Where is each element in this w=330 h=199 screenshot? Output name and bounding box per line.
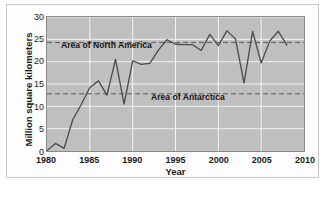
- x-axis-title: Year: [46, 166, 305, 177]
- chart-svg: [47, 17, 304, 151]
- x-tick-1985: 1985: [79, 155, 99, 165]
- chart-figure: 0 5 10 15 20 25 30 1980 1985 1990 1995 2…: [0, 0, 330, 199]
- plot-area: Area of North America Area of Antarctica: [46, 16, 305, 152]
- annotation-antarctica: Area of Antarctica: [151, 92, 225, 102]
- y-tick-5: 5: [39, 125, 44, 134]
- x-tick-1995: 1995: [165, 155, 185, 165]
- x-tick-2000: 2000: [209, 155, 229, 165]
- x-tick-2005: 2005: [252, 155, 272, 165]
- y-axis-title: Million square kilometers: [23, 15, 34, 165]
- x-tick-1980: 1980: [36, 155, 56, 165]
- y-tick-30: 30: [34, 13, 44, 22]
- y-tick-15: 15: [34, 80, 44, 89]
- gridlines: [47, 17, 304, 151]
- y-tick-20: 20: [34, 57, 44, 66]
- annotation-north-america: Area of North America: [61, 40, 152, 50]
- y-tick-25: 25: [34, 34, 44, 43]
- x-tick-2010: 2010: [295, 155, 315, 165]
- x-tick-1990: 1990: [122, 155, 142, 165]
- y-tick-10: 10: [34, 102, 44, 111]
